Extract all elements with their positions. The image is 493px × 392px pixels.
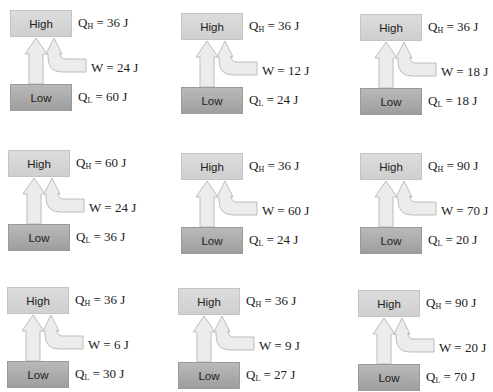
work-label: W = 24 J [89,200,136,216]
low-temperature-reservoir: Low [10,84,72,111]
high-temperature-reservoir: High [181,13,243,40]
w-arrow-icon [44,178,84,212]
low-temperature-reservoir: Low [178,362,240,389]
heat-engine-diagram-r1c3: High Low QH = 36 J W = 18 J QL = 18 J [360,14,493,124]
heat-engine-diagram-r1c2: High Low QH = 36 J W = 12 J QL = 24 J [181,13,341,123]
high-temperature-reservoir: High [360,153,422,180]
ql-label: QL = 27 J [246,367,295,383]
ql-arrow-icon [25,38,47,84]
ql-label: QL = 60 J [78,89,127,105]
ql-label: QL = 24 J [249,232,298,248]
w-arrow-icon [214,316,254,350]
heat-engine-diagram-r2c2: High Low QH = 36 J W = 60 J QL = 24 J [181,153,341,263]
qh-label: QH = 36 J [249,158,299,174]
w-arrow-icon [46,38,86,72]
high-temperature-reservoir: High [178,288,240,315]
qh-label: QH = 36 J [75,292,125,308]
ql-label: QL = 24 J [249,92,298,108]
high-temperature-reservoir: High [10,10,72,37]
work-label: W = 9 J [259,338,300,354]
qh-label: QH = 60 J [76,155,126,171]
high-temperature-reservoir: High [7,287,69,314]
low-temperature-reservoir: Low [181,87,243,114]
high-temperature-reservoir: High [360,14,422,41]
ql-label: QL = 18 J [428,93,477,109]
heat-engine-diagram-r3c1: High Low QH = 36 J W = 6 J QL = 30 J [7,287,167,392]
ql-arrow-icon [196,181,218,227]
heat-engine-diagram-r2c3: High Low QH = 90 J W = 70 J QL = 20 J [360,153,493,263]
work-label: W = 60 J [262,203,309,219]
work-label: W = 12 J [262,63,309,79]
ql-label: QL = 30 J [75,366,124,382]
low-temperature-reservoir: Low [181,227,243,254]
high-temperature-reservoir: High [181,153,243,180]
heat-engine-diagram-r3c3: High Low QH = 90 J W = 20 J QL = 70 J [358,290,493,392]
w-arrow-icon [217,41,257,75]
work-label: W = 70 J [441,203,488,219]
low-temperature-reservoir: Low [7,361,69,388]
work-label: W = 20 J [439,340,486,356]
ql-arrow-icon [22,315,44,361]
ql-arrow-icon [373,318,395,364]
qh-label: QH = 36 J [246,293,296,309]
w-arrow-icon [43,315,83,349]
qh-label: QH = 36 J [249,18,299,34]
qh-label: QH = 90 J [428,158,478,174]
w-arrow-icon [396,42,436,76]
high-temperature-reservoir: High [8,150,70,177]
ql-arrow-icon [193,316,215,362]
high-temperature-reservoir: High [358,290,420,317]
work-label: W = 6 J [88,337,129,353]
ql-arrow-icon [196,41,218,87]
ql-arrow-icon [375,42,397,88]
ql-arrow-icon [23,178,45,224]
w-arrow-icon [396,181,436,215]
low-temperature-reservoir: Low [8,224,70,251]
w-arrow-icon [394,318,434,352]
low-temperature-reservoir: Low [360,227,422,254]
w-arrow-icon [217,181,257,215]
heat-engine-diagram-r3c2: High Low QH = 36 J W = 9 J QL = 27 J [178,288,338,392]
ql-label: QL = 20 J [428,232,477,248]
ql-arrow-icon [375,181,397,227]
heat-engine-diagram-r1c1: High Low QH = 36 J W = 24 J QL = 60 J [10,10,170,120]
qh-label: QH = 36 J [78,15,128,31]
heat-engine-diagram-r2c1: High Low QH = 60 J W = 24 J QL = 36 J [8,150,168,260]
qh-label: QH = 90 J [426,295,476,311]
work-label: W = 18 J [441,64,488,80]
ql-label: QL = 70 J [426,369,475,385]
work-label: W = 24 J [91,60,138,76]
low-temperature-reservoir: Low [360,88,422,115]
ql-label: QL = 36 J [76,229,125,245]
qh-label: QH = 36 J [428,19,478,35]
low-temperature-reservoir: Low [358,364,420,391]
